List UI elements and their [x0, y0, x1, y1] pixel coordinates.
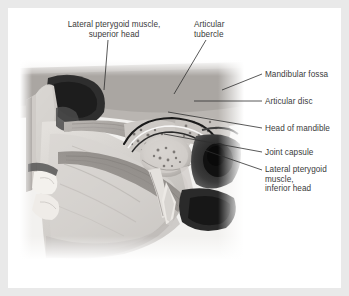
- label-lateral-pterygoid-inferior-head: Lateral pterygoid muscle, inferior head: [265, 165, 341, 194]
- figure-stage: Lateral pterygoid muscle, superior head …: [8, 8, 341, 288]
- label-mandibular-fossa: Mandibular fossa: [265, 70, 341, 80]
- label-joint-capsule: Joint capsule: [265, 148, 341, 158]
- label-articular-disc: Articular disc: [265, 97, 341, 107]
- tmj-anatomy-image: [20, 60, 244, 260]
- label-articular-tubercle: Articular tubercle: [194, 20, 254, 39]
- figure-card: Lateral pterygoid muscle, superior head …: [8, 8, 341, 288]
- label-lateral-pterygoid-superior-head: Lateral pterygoid muscle, superior head: [46, 20, 182, 39]
- label-head-of-mandible: Head of mandible: [265, 124, 341, 134]
